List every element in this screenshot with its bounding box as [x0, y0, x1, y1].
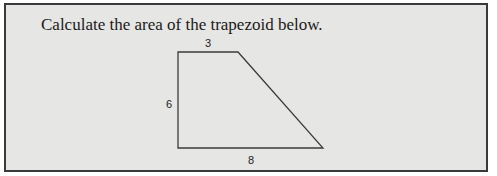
trapezoid-figure: 3 6 8 [0, 0, 497, 176]
height-label: 6 [166, 98, 172, 110]
top-base-label: 3 [205, 37, 211, 49]
bottom-base-label: 8 [248, 154, 254, 166]
trapezoid-shape [178, 52, 323, 148]
